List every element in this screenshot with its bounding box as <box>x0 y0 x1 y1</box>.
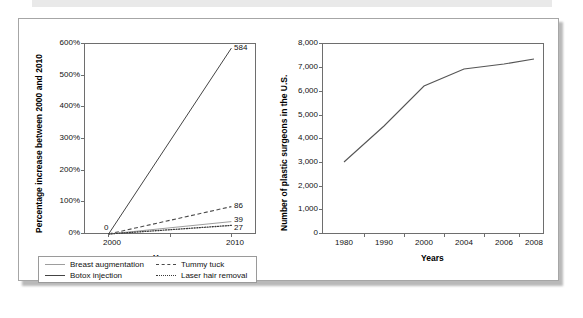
left-chart-y-tick-label: 200% <box>50 165 80 174</box>
right-chart-y-tick-label: 8,000 <box>286 38 318 47</box>
left-chart-x-tick-label: 2010 <box>218 238 252 247</box>
right-chart-y-tick <box>319 138 322 139</box>
left-chart-y-tick-label: 100% <box>50 196 80 205</box>
left-chart-y-tick <box>81 201 84 202</box>
left-chart-y-tick-label: 600% <box>50 38 80 47</box>
right-chart-x-tick-label: 2006 <box>487 238 521 247</box>
right-chart-x-axis-title: Years <box>421 253 444 263</box>
left-chart-y-tick-label: 0% <box>50 228 80 237</box>
right-chart-y-tick <box>319 67 322 68</box>
legend-item-tummy-tuck: Tummy tuck <box>156 259 250 270</box>
right-chart-y-tick <box>319 43 322 44</box>
right-chart-y-tick <box>319 186 322 187</box>
right-chart-y-tick-label: 2,000 <box>286 181 318 190</box>
legend-item-breast-augmentation: Breast augmentation <box>45 259 156 270</box>
right-chart-series-layer <box>322 43 544 234</box>
right-chart-x-tick <box>364 234 365 237</box>
legend-item-botox-injection: Botox injection <box>45 270 156 281</box>
right-chart-x-tick-label: 1980 <box>327 238 361 247</box>
right-chart-plot-area <box>322 43 544 234</box>
series-line-botox-injection <box>109 48 232 234</box>
right-chart-y-tick <box>319 233 322 234</box>
right-chart-y-tick-label: 1,000 <box>286 204 318 213</box>
legend-swatch-solid-dark-icon <box>45 275 65 276</box>
left-chart-y-tick-label: 400% <box>50 101 80 110</box>
left-chart-y-tick <box>81 43 84 44</box>
right-chart: Number of plastic surgeons in the U.S. <box>268 18 559 281</box>
right-chart-y-tick-label: 3,000 <box>286 157 318 166</box>
series-line-plastic-surgeons <box>344 59 534 162</box>
left-chart: Percentage increase between 2000 and 201… <box>18 18 268 281</box>
left-chart-y-axis-title: Percentage increase between 2000 and 201… <box>34 38 44 233</box>
right-chart-x-tick-label: 2004 <box>447 238 481 247</box>
legend-label: Breast augmentation <box>70 260 144 269</box>
left-chart-x-tick <box>231 234 232 237</box>
left-chart-y-tick-label: 300% <box>50 133 80 142</box>
right-chart-x-tick-label: 2008 <box>517 238 551 247</box>
series-line-laser-hair-removal <box>109 225 232 234</box>
right-chart-x-tick <box>444 234 445 237</box>
right-chart-y-tick-label: 5,000 <box>286 110 318 119</box>
left-chart-y-tick <box>81 138 84 139</box>
legend-column-left: Breast augmentation Botox injection <box>45 259 156 281</box>
legend-label: Tummy tuck <box>181 260 224 269</box>
legend-label: Botox injection <box>70 271 122 280</box>
data-label-botox-584: 584 <box>234 44 247 52</box>
right-chart-x-tick <box>484 234 485 237</box>
legend-swatch-solid-light-icon <box>45 264 65 265</box>
left-chart-x-tick <box>108 234 109 237</box>
left-chart-x-tick-label: 2000 <box>95 238 129 247</box>
chart-legend: Breast augmentation Botox injection Tumm… <box>38 256 257 283</box>
legend-swatch-dashed-icon <box>156 264 176 265</box>
right-chart-x-tick-label: 2000 <box>407 238 441 247</box>
right-chart-x-tick-label: 1990 <box>367 238 401 247</box>
right-chart-y-tick <box>319 91 322 92</box>
legend-swatch-dotted-icon <box>156 275 176 276</box>
left-chart-y-tick <box>81 106 84 107</box>
data-label-laser-hair-removal-27: 27 <box>234 224 243 232</box>
right-chart-x-tick <box>404 234 405 237</box>
data-label-tummy-tuck-86: 86 <box>234 202 243 210</box>
legend-label: Laser hair removal <box>181 271 247 280</box>
left-chart-x-tick <box>170 234 171 237</box>
figure-root: Percentage increase between 2000 and 201… <box>0 0 583 318</box>
top-band-decoration <box>32 0 552 7</box>
right-chart-y-tick-label: 7,000 <box>286 62 318 71</box>
legend-item-laser-hair-removal: Laser hair removal <box>156 270 250 281</box>
legend-column-right: Tummy tuck Laser hair removal <box>156 259 250 281</box>
left-chart-y-tick <box>81 233 84 234</box>
left-chart-y-tick <box>81 75 84 76</box>
left-chart-y-tick-label: 500% <box>50 70 80 79</box>
left-chart-series-layer <box>84 43 256 234</box>
right-chart-y-tick-label: 0 <box>286 228 318 237</box>
right-chart-y-tick-label: 4,000 <box>286 133 318 142</box>
left-chart-y-tick <box>81 170 84 171</box>
right-chart-y-tick-label: 6,000 <box>286 86 318 95</box>
right-chart-y-tick <box>319 162 322 163</box>
right-chart-x-tick <box>519 234 520 237</box>
right-chart-y-tick <box>319 115 322 116</box>
series-line-tummy-tuck <box>109 207 232 234</box>
left-chart-plot-area: 0 584 86 39 27 <box>84 43 256 234</box>
data-label-origin-zero: 0 <box>104 224 108 232</box>
right-chart-y-tick <box>319 209 322 210</box>
